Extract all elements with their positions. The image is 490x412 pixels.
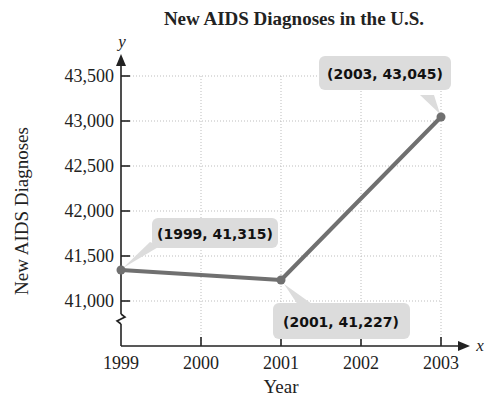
chart-figure: New AIDS Diagnoses in the U.S.: [0, 0, 490, 412]
x-axis-letter: x: [475, 336, 484, 355]
x-tick-labels: 1999 2000 2001 2002 2003: [103, 353, 459, 373]
y-axis-arrow-icon: [116, 54, 126, 66]
y-tick-label: 41,000: [65, 291, 115, 311]
x-tick-label: 1999: [103, 353, 139, 373]
data-point: [117, 266, 126, 275]
y-tick-label: 43,000: [65, 111, 115, 131]
y-tick-label: 41,500: [65, 246, 115, 266]
x-axis-label: Year: [263, 376, 299, 397]
callout-2001: (2001, 41,227): [273, 303, 410, 339]
x-tick-label: 2000: [183, 353, 219, 373]
x-tick-label: 2001: [263, 353, 299, 373]
data-point: [277, 276, 286, 285]
data-point: [437, 113, 446, 122]
callout-label: (2001, 41,227): [283, 314, 399, 330]
y-tick-labels: 43,500 43,000 42,500 42,000 41,500 41,00…: [65, 66, 115, 311]
x-tick-label: 2003: [423, 353, 459, 373]
x-tick-label: 2002: [343, 353, 379, 373]
chart-title: New AIDS Diagnoses in the U.S.: [164, 8, 424, 29]
y-tick-label: 43,500: [65, 66, 115, 86]
y-tick-label: 42,000: [65, 201, 115, 221]
y-tick-label: 42,500: [65, 156, 115, 176]
line-chart: New AIDS Diagnoses in the U.S.: [0, 0, 490, 412]
callout-1999: (1999, 41,315): [152, 218, 278, 248]
callout-label: (1999, 41,315): [157, 226, 273, 242]
y-axis-letter: y: [116, 32, 126, 51]
callout-2003: (2003, 43,045): [319, 56, 451, 90]
callout-label: (2003, 43,045): [327, 66, 443, 82]
y-axis-label: New AIDS Diagnoses: [11, 127, 32, 295]
x-axis-arrow-icon: [458, 341, 470, 351]
